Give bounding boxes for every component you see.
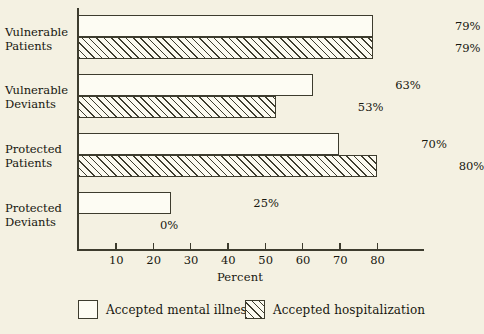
x-axis-tick-label: 30 <box>184 253 199 267</box>
bar-value-mental-illness: 70% <box>421 133 447 155</box>
x-axis-tick-label: 20 <box>146 253 161 267</box>
legend-swatch-mental-illness <box>78 300 98 319</box>
x-axis-tick-label: 10 <box>109 253 124 267</box>
bar-mental-illness <box>78 74 313 96</box>
legend-item-hospitalization: Accepted hospitalization <box>245 300 425 319</box>
bar-value-hospitalization: 53% <box>358 96 384 118</box>
bar-mental-illness <box>78 133 339 155</box>
x-axis-tick-label: 50 <box>258 253 273 267</box>
bar-value-mental-illness: 25% <box>253 192 279 214</box>
x-axis-tick <box>339 243 340 251</box>
bar-value-hospitalization: 79% <box>455 37 481 59</box>
category-label-vulnerable-patients: Vulnerable Patients <box>5 25 77 53</box>
bar-value-mental-illness: 79% <box>455 15 481 37</box>
legend-item-mental-illness: Accepted mental illness <box>78 300 253 319</box>
bar-mental-illness <box>78 192 171 214</box>
x-axis-tick <box>153 243 154 251</box>
bar-value-mental-illness: 63% <box>395 74 421 96</box>
x-axis-title-text: Percent <box>171 270 263 284</box>
x-axis-title: Percent <box>0 270 434 284</box>
x-axis-tick <box>227 243 228 251</box>
bar-hospitalization <box>78 96 276 118</box>
category-label-vulnerable-deviants: Vulnerable Deviants <box>5 83 77 111</box>
bar-hospitalization <box>78 155 377 177</box>
bar-mental-illness <box>78 15 373 37</box>
legend-swatch-hospitalization <box>245 300 265 319</box>
bar-value-hospitalization: 80% <box>459 155 484 177</box>
x-axis-line <box>77 249 424 251</box>
x-axis-tick <box>265 243 266 251</box>
category-label-protected-deviants: Protected Deviants <box>5 201 77 229</box>
legend: Accepted mental illness Accepted hospita… <box>0 300 434 328</box>
bar-value-hospitalization: 0% <box>160 214 178 236</box>
bar-hospitalization <box>78 37 373 59</box>
x-axis-tick <box>190 243 191 251</box>
legend-label-hospitalization: Accepted hospitalization <box>273 303 425 317</box>
x-axis-tick <box>302 243 303 251</box>
legend-label-mental-illness: Accepted mental illness <box>106 303 253 317</box>
x-axis-tick <box>115 243 116 251</box>
category-label-protected-patients: Protected Patients <box>5 142 77 170</box>
x-axis-tick <box>377 243 378 251</box>
x-axis-tick-label: 40 <box>221 253 236 267</box>
x-axis-tick-label: 60 <box>296 253 311 267</box>
x-axis-tick-label: 80 <box>370 253 385 267</box>
x-axis-tick-label: 70 <box>333 253 348 267</box>
